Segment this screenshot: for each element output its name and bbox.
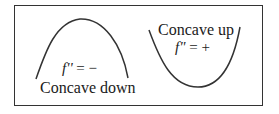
curves-canvas [0,0,279,114]
left-equation-fn: f'' [62,60,73,76]
left-equation-value: = − [73,60,97,76]
left-equation: f'' = − [62,61,97,76]
concave-up-label: Concave up [158,22,234,38]
right-equation-fn: f" [175,39,185,55]
concave-down-label: Concave down [40,80,136,96]
right-equation: f" = + [175,40,210,55]
right-equation-value: = + [185,39,209,55]
